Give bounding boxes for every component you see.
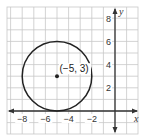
- y-axis-down-arrow-icon: [113, 127, 118, 133]
- point-label: (−5, 3): [60, 63, 89, 74]
- y-tick-label: 2: [106, 83, 111, 93]
- y-tick-label: 4: [106, 60, 111, 70]
- y-axis-up-arrow-icon: [113, 8, 118, 14]
- x-tick-label: −8: [17, 114, 27, 124]
- y-tick-label: 8: [106, 14, 111, 24]
- x-tick-label: −6: [40, 114, 50, 124]
- y-axis-label: y: [118, 6, 124, 17]
- coordinate-plane: −8−6−4−22468 x y (−5, 3): [0, 0, 144, 138]
- x-axis-label: x: [133, 113, 139, 124]
- x-tick-label: −4: [63, 114, 73, 124]
- x-tick-label: −2: [87, 114, 97, 124]
- y-tick-label: 6: [106, 37, 111, 47]
- center-point: [55, 74, 59, 78]
